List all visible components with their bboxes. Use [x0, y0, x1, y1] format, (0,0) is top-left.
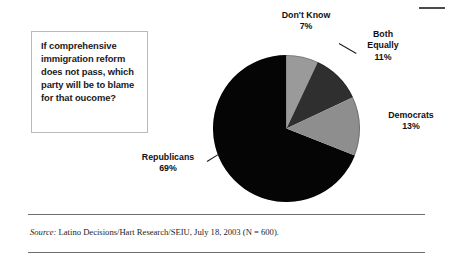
pie-label-democrats: Democrats 13%: [375, 110, 447, 133]
figure-container: If comprehensive immigration reform does…: [0, 0, 453, 268]
pie-label-both-equally-pct: 11%: [355, 52, 411, 63]
question-text: If comprehensive immigration reform does…: [41, 39, 139, 104]
top-rule: [419, 7, 445, 9]
pie-label-democrats-pct: 13%: [375, 121, 447, 132]
pie-chart: [213, 55, 360, 202]
pie-label-republicans-pct: 69%: [126, 163, 210, 174]
source-text: Latino Decisions/Hart Research/SEIU, Jul…: [56, 227, 279, 237]
pie-label-democrats-name: Democrats: [388, 110, 433, 120]
source-label: Source:: [30, 227, 56, 237]
pie-chart-svg: [213, 55, 360, 202]
pie-label-dont-know: Don't Know 7%: [267, 10, 345, 33]
pie-label-both-equally: Both Equally 11%: [355, 29, 411, 63]
pie-label-dont-know-name: Don't Know: [282, 10, 331, 20]
pie-label-both-equally-name-line2: Equally: [355, 40, 411, 51]
source-rule-bottom: [28, 252, 425, 253]
question-callout-box: If comprehensive immigration reform does…: [31, 31, 148, 133]
pie-label-dont-know-pct: 7%: [267, 21, 345, 32]
source-line: Source: Latino Decisions/Hart Research/S…: [30, 227, 279, 237]
pie-label-republicans-name: Republicans: [142, 152, 194, 162]
source-rule-top: [28, 214, 425, 215]
leader-line-both-equally: [339, 43, 357, 54]
pie-label-both-equally-name-line1: Both: [373, 29, 393, 39]
pie-label-republicans: Republicans 69%: [126, 152, 210, 175]
